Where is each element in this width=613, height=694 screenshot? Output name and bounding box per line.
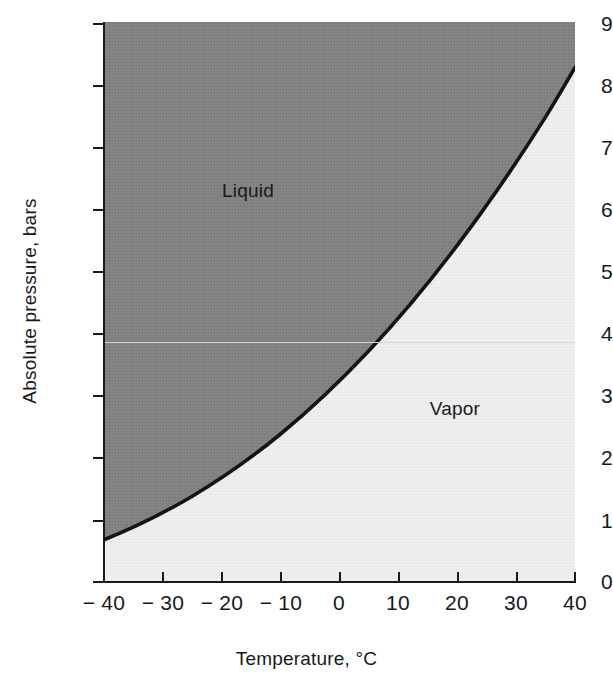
y-tick-9 <box>93 23 104 25</box>
y-tick-label-3: 3 <box>525 385 613 406</box>
y-tick-2 <box>93 457 104 459</box>
x-tick-20 <box>457 572 459 583</box>
y-tick-label-8: 8 <box>525 75 613 96</box>
x-tick-minus40 <box>103 572 105 583</box>
y-tick-label-6: 6 <box>525 199 613 220</box>
y-tick-label-9: 9 <box>525 13 613 34</box>
y-tick-label-0: 0 <box>525 571 613 592</box>
y-tick-label-4: 4 <box>525 323 613 344</box>
y-tick-label-7: 7 <box>525 137 613 158</box>
y-tick-4 <box>93 333 104 335</box>
region-label-liquid: Liquid <box>203 180 293 202</box>
y-axis-title: Absolute pressure, bars <box>19 121 41 481</box>
phase-diagram-figure: 0 1 2 3 4 5 6 7 8 9 − 40 − 30 − 20 − 10 … <box>0 0 613 694</box>
y-tick-1 <box>93 520 104 522</box>
x-axis-title: Temperature, °C <box>0 648 613 670</box>
y-tick-6 <box>93 209 104 211</box>
region-label-vapor: Vapor <box>410 398 500 420</box>
y-tick-5 <box>93 271 104 273</box>
x-tick-40 <box>574 572 576 583</box>
x-tick-minus20 <box>221 572 223 583</box>
plot-svg <box>104 22 575 582</box>
y-tick-8 <box>93 85 104 87</box>
y-axis-title-wrap: Absolute pressure, bars <box>0 0 48 600</box>
y-axis-line <box>103 22 105 583</box>
x-tick-0 <box>339 572 341 583</box>
y-tick-7 <box>93 147 104 149</box>
y-tick-label-5: 5 <box>525 261 613 282</box>
x-tick-minus10 <box>280 572 282 583</box>
x-tick-30 <box>516 572 518 583</box>
x-tick-label-40: 40 <box>530 592 613 613</box>
x-tick-minus30 <box>162 572 164 583</box>
plot-area <box>104 22 575 582</box>
y-tick-label-2: 2 <box>525 447 613 468</box>
y-tick-3 <box>93 395 104 397</box>
x-tick-10 <box>398 572 400 583</box>
y-tick-label-1: 1 <box>525 510 613 531</box>
